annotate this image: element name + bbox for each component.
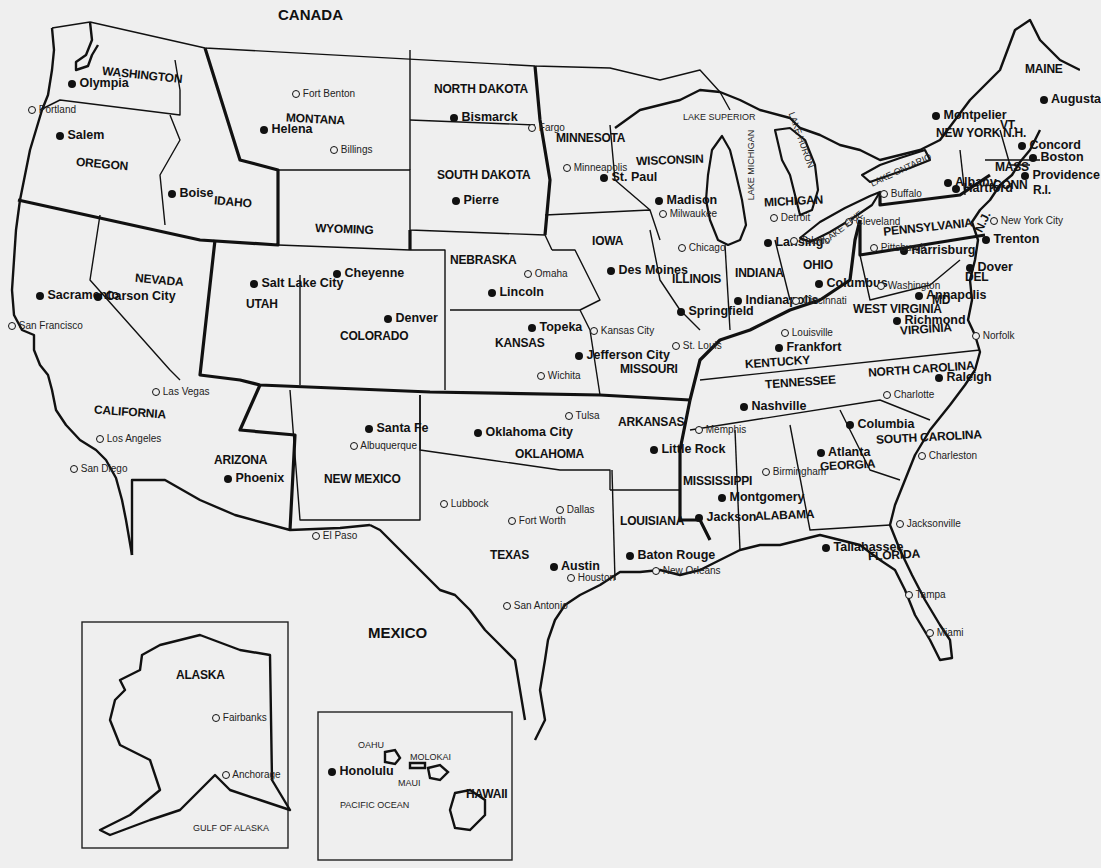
- capital-marker-icon: [775, 344, 783, 352]
- capital-providence: Providence: [1021, 168, 1100, 182]
- city-marker-icon: [678, 244, 686, 252]
- capital-marker-icon: [1040, 96, 1048, 104]
- city-marker-icon: [762, 468, 770, 476]
- city-charleston: Charleston: [918, 450, 977, 461]
- capital-frankfort: Frankfort: [775, 340, 841, 354]
- capital-marker-icon: [260, 126, 268, 134]
- city-marker-icon: [563, 164, 571, 172]
- city-name: Washington: [885, 280, 940, 291]
- city-name: Lubbock: [448, 498, 489, 509]
- capital-lincoln: Lincoln: [488, 285, 544, 299]
- city-marker-icon: [781, 329, 789, 337]
- city-name: Fairbanks: [220, 712, 267, 723]
- capital-madison: Madison: [655, 193, 717, 207]
- state-label-wisconsin: WISCONSIN: [636, 152, 704, 168]
- city-minneapolis: Minneapolis: [563, 162, 627, 173]
- capital-raleigh: Raleigh: [935, 370, 992, 384]
- city-marker-icon: [212, 714, 220, 722]
- water-label-lake-superior: LAKE SUPERIOR: [683, 112, 756, 122]
- island-label-maui: MAUI: [398, 778, 421, 788]
- city-name: Louisville: [789, 327, 833, 338]
- city-marker-icon: [312, 532, 320, 540]
- city-charlotte: Charlotte: [883, 389, 934, 400]
- oahu-island: [385, 750, 400, 764]
- capital-sacramento: Sacramento: [36, 288, 119, 302]
- state-label-hawaii: HAWAII: [466, 787, 507, 801]
- city-fort-worth: Fort Worth: [508, 515, 566, 526]
- capital-name: Phoenix: [232, 471, 284, 485]
- capital-boise: Boise: [168, 186, 214, 200]
- state-label-maine: MAINE: [1025, 62, 1063, 76]
- city-name: Buffalo: [888, 188, 922, 199]
- capital-name: Richmond: [901, 313, 966, 327]
- city-marker-icon: [990, 217, 998, 225]
- city-marker-icon: [96, 435, 104, 443]
- city-name: San Diego: [78, 463, 127, 474]
- city-marker-icon: [292, 90, 300, 98]
- capital-name: Raleigh: [943, 370, 992, 384]
- city-name: Las Vegas: [160, 386, 209, 397]
- capital-name: Montpelier: [940, 108, 1007, 122]
- state-label-rhode-island: R.I.: [1033, 183, 1051, 197]
- city-name: Tulsa: [573, 410, 600, 421]
- capital-marker-icon: [68, 80, 76, 88]
- capital-name: Denver: [392, 311, 438, 325]
- island-label-molokai: MOLOKAI: [410, 752, 451, 762]
- city-marker-icon: [8, 322, 16, 330]
- capital-marker-icon: [1018, 142, 1026, 150]
- city-name: Miami: [934, 627, 963, 638]
- city-name: Norfolk: [980, 330, 1014, 341]
- capital-marker-icon: [1029, 154, 1037, 162]
- water-label-lake-michigan: LAKE MICHIGAN: [746, 130, 756, 201]
- city-name: Charleston: [926, 450, 977, 461]
- capital-name: Tallahassee: [830, 540, 903, 554]
- city-houston: Houston: [567, 572, 615, 583]
- state-label-wyoming: WYOMING: [315, 221, 374, 237]
- capital-marker-icon: [550, 563, 558, 571]
- capital-name: Hartford: [960, 181, 1013, 195]
- city-jacksonville: Jacksonville: [896, 518, 961, 529]
- capital-name: Frankfort: [783, 340, 841, 354]
- capital-marker-icon: [626, 552, 634, 560]
- city-pittsburgh: Pittsburgh: [870, 242, 926, 253]
- capital-name: Helena: [268, 122, 312, 136]
- capital-name: Salem: [64, 128, 104, 142]
- capital-name: Topeka: [536, 320, 582, 334]
- city-new-orleans: New Orleans: [652, 565, 721, 576]
- capital-marker-icon: [982, 236, 990, 244]
- state-label-iowa: IOWA: [592, 234, 623, 248]
- city-billings: Billings: [330, 144, 372, 155]
- city-marker-icon: [695, 426, 703, 434]
- city-marker-icon: [556, 506, 564, 514]
- capital-denver: Denver: [384, 311, 438, 325]
- water-label-gulf-of-alaska: GULF OF ALASKA: [193, 823, 269, 833]
- city-tulsa: Tulsa: [565, 410, 600, 421]
- capital-name: Des Moines: [615, 263, 688, 277]
- capital-marker-icon: [575, 352, 583, 360]
- city-name: Birmingham: [770, 466, 826, 477]
- alaska-outline: [100, 635, 290, 835]
- city-name: Albuquerque: [358, 440, 417, 451]
- city-name: Detroit: [778, 212, 810, 223]
- water-label-pacific-ocean: PACIFIC OCEAN: [340, 800, 409, 810]
- capital-name: Austin: [558, 559, 600, 573]
- capital-olympia: Olympia: [68, 76, 129, 90]
- capital-bismarck: Bismarck: [450, 110, 518, 124]
- city-san-antonio: San Antonio: [503, 600, 568, 611]
- capital-salt-lake-city: Salt Lake City: [250, 276, 343, 290]
- capital-marker-icon: [846, 421, 854, 429]
- city-marker-icon: [508, 517, 516, 525]
- capital-richmond: Richmond: [893, 313, 966, 327]
- city-marker-icon: [440, 500, 448, 508]
- capital-oklahoma-city: Oklahoma City: [474, 425, 573, 439]
- capital-name: Bismarck: [458, 110, 518, 124]
- city-marker-icon: [792, 297, 800, 305]
- capital-marker-icon: [935, 374, 943, 382]
- city-name: El Paso: [320, 530, 357, 541]
- capital-santa-fe: Santa Fe: [365, 421, 429, 435]
- city-name: Jacksonville: [904, 518, 961, 529]
- capital-marker-icon: [450, 114, 458, 122]
- city-marker-icon: [877, 282, 885, 290]
- city-new-york-city: New York City: [990, 215, 1063, 226]
- capital-name: Jackson: [703, 510, 757, 524]
